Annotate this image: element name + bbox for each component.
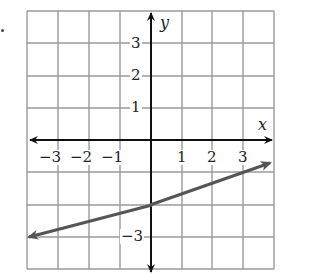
x-tick-neg1: −1 xyxy=(100,150,124,165)
y-tick-neg3: −3 xyxy=(120,229,144,244)
y-tick-3: 3 xyxy=(130,36,142,51)
y-tick-2: 2 xyxy=(130,68,142,83)
y-tick-1: 1 xyxy=(130,100,142,115)
x-tick-2: 2 xyxy=(206,150,218,165)
x-tick-1: 1 xyxy=(176,150,188,165)
x-tick-neg2: −2 xyxy=(69,150,93,165)
data-line xyxy=(29,163,270,237)
x-axis-label: x xyxy=(258,117,267,133)
y-axis-label: y xyxy=(160,15,169,31)
x-tick-neg3: −3 xyxy=(38,150,62,165)
x-tick-3: 3 xyxy=(237,150,249,165)
axes xyxy=(30,13,272,272)
